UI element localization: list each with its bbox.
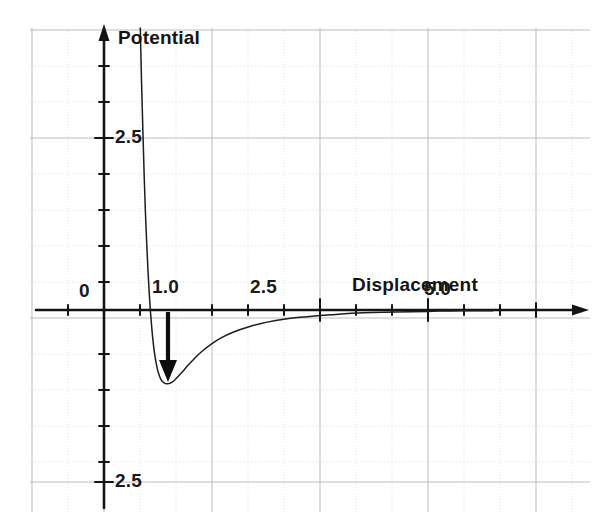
x-axis-arrowhead [572, 305, 589, 316]
x-tick-label-0: 0 [79, 280, 90, 302]
y-tick-label-negative: 2.5 [115, 470, 142, 492]
grid-minor-lines [30, 28, 590, 512]
axes-group [36, 24, 589, 508]
potential-displacement-figure: Potential Displacement 0 1.0 2.5 5.0 2.5… [0, 0, 595, 519]
y-tick-label-positive: 2.5 [115, 126, 142, 148]
well-depth-arrowhead [159, 360, 177, 382]
x-tick-label-1: 1.0 [152, 276, 179, 298]
y-axis-title: Potential [118, 27, 200, 49]
x-tick-label-2: 2.5 [250, 276, 277, 298]
well-depth-arrow [159, 312, 177, 382]
grid-major-lines [30, 28, 590, 512]
x-axis-title: Displacement [352, 274, 478, 296]
graph-canvas [0, 0, 595, 519]
x-tick-label-3: 5.0 [424, 278, 451, 300]
y-axis [95, 24, 113, 508]
y-axis-arrowhead [99, 24, 110, 41]
potential-curve [140, 28, 493, 384]
